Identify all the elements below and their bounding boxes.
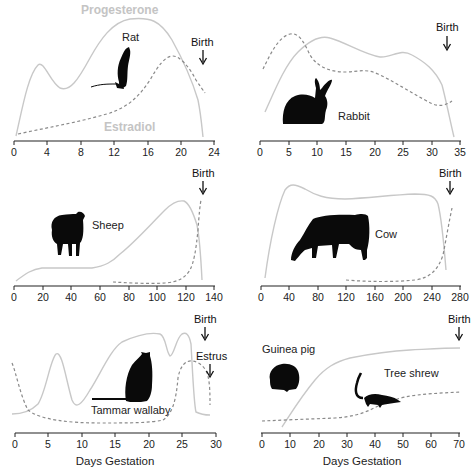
tick-label: 10 bbox=[284, 438, 296, 450]
tick-label: 20 bbox=[369, 146, 381, 158]
sheep-icon bbox=[51, 212, 85, 256]
tick-label: 0 bbox=[11, 291, 17, 303]
cow-birth-arrow-icon bbox=[447, 181, 454, 194]
tick-label: 40 bbox=[65, 291, 77, 303]
panel-cow: Cow Birth 0 40 80 120 160 200 240 280 bbox=[258, 167, 469, 303]
tick-label: 50 bbox=[397, 438, 409, 450]
tree-shrew-line bbox=[262, 392, 461, 421]
rat-icon bbox=[91, 47, 130, 89]
tick-label: 15 bbox=[109, 438, 121, 450]
tick-label: 140 bbox=[205, 291, 223, 303]
tick-label: 10 bbox=[311, 146, 323, 158]
tick-label: 80 bbox=[123, 291, 135, 303]
guinea-pig-label: Guinea pig bbox=[262, 343, 315, 355]
tick-label: 25 bbox=[397, 146, 409, 158]
tick-label: 0 bbox=[259, 438, 265, 450]
wallaby-birth-arrow-icon bbox=[202, 327, 209, 340]
guinea-xaxis-title: Days Gestation bbox=[323, 455, 402, 467]
wallaby-label: Tammar wallaby bbox=[91, 404, 171, 416]
guinea-birth-arrow-icon bbox=[456, 327, 463, 340]
rabbit-icon bbox=[283, 78, 332, 124]
tick-label: 70 bbox=[453, 438, 465, 450]
tick-label: 20 bbox=[143, 438, 155, 450]
tick-label: 60 bbox=[425, 438, 437, 450]
guinea-pig-icon bbox=[270, 364, 300, 392]
tick-label: 100 bbox=[148, 291, 166, 303]
estradiol-label: Estradiol bbox=[104, 120, 155, 134]
tick-label: 40 bbox=[283, 291, 295, 303]
rat-ticks bbox=[14, 141, 214, 145]
tick-label: 16 bbox=[142, 146, 154, 158]
tick-label: 40 bbox=[369, 438, 381, 450]
cow-birth-label: Birth bbox=[439, 167, 462, 179]
tick-label: 240 bbox=[423, 291, 441, 303]
tick-label: 120 bbox=[337, 291, 355, 303]
rat-birth-label: Birth bbox=[191, 36, 214, 48]
wallaby-birth-label: Birth bbox=[194, 313, 217, 325]
tick-label: 12 bbox=[108, 146, 120, 158]
tick-label: 5 bbox=[45, 438, 51, 450]
panel-tammar-wallaby: Tammar wallaby Birth Estrus 0 5 10 15 20… bbox=[12, 313, 228, 467]
figure-root: Progesterone Estradiol Rat Birth 0 4 8 1… bbox=[0, 0, 476, 474]
tick-label: 10 bbox=[76, 438, 88, 450]
tick-label: 120 bbox=[177, 291, 195, 303]
panel-sheep: Sheep Birth 0 20 40 60 80 100 120 140 bbox=[11, 167, 223, 303]
rabbit-label: Rabbit bbox=[338, 110, 370, 122]
cow-icon bbox=[291, 214, 369, 261]
estrus-arrow-icon bbox=[207, 364, 214, 377]
panel-guinea-pig-tree-shrew: Guinea pig Tree shrew Birth 0 10 20 30 4… bbox=[259, 313, 471, 467]
tick-label: 30 bbox=[341, 438, 353, 450]
tick-label: 80 bbox=[312, 291, 324, 303]
wallaby-xaxis-title: Days Gestation bbox=[76, 455, 155, 467]
tick-label: 35 bbox=[454, 146, 466, 158]
tick-label: 0 bbox=[11, 146, 17, 158]
sheep-birth-label: Birth bbox=[192, 167, 215, 179]
guinea-pig-line bbox=[282, 348, 460, 427]
tick-label: 24 bbox=[208, 146, 220, 158]
rabbit-ticks bbox=[260, 141, 460, 145]
rat-birth-arrow-icon bbox=[200, 50, 207, 64]
panel-rat: Progesterone Estradiol Rat Birth 0 4 8 1… bbox=[11, 3, 220, 158]
guinea-birth-label: Birth bbox=[448, 313, 471, 325]
cow-label: Cow bbox=[375, 228, 397, 240]
tick-label: 20 bbox=[37, 291, 49, 303]
rabbit-estradiol-line bbox=[263, 34, 452, 106]
tick-label: 5 bbox=[286, 146, 292, 158]
panel-rabbit: Rabbit Birth 0 5 10 15 20 25 30 35 bbox=[257, 21, 466, 158]
sheep-birth-arrow-icon bbox=[200, 181, 207, 194]
rat-label: Rat bbox=[122, 31, 139, 43]
progesterone-label: Progesterone bbox=[81, 3, 159, 17]
sheep-label: Sheep bbox=[92, 219, 124, 231]
tick-label: 30 bbox=[210, 438, 222, 450]
tick-label: 20 bbox=[175, 146, 187, 158]
rabbit-birth-arrow-icon bbox=[444, 36, 451, 50]
tick-label: 25 bbox=[176, 438, 188, 450]
tick-label: 15 bbox=[340, 146, 352, 158]
estrus-label: Estrus bbox=[196, 350, 228, 362]
tree-shrew-label: Tree shrew bbox=[384, 367, 439, 379]
tick-label: 4 bbox=[44, 146, 50, 158]
tick-label: 8 bbox=[78, 146, 84, 158]
tick-label: 0 bbox=[258, 291, 264, 303]
sheep-estradiol-line bbox=[113, 200, 201, 283]
tick-label: 0 bbox=[12, 438, 18, 450]
sheep-progesterone-line bbox=[16, 201, 202, 281]
tammar-wallaby-icon bbox=[92, 352, 152, 402]
tick-label: 60 bbox=[94, 291, 106, 303]
tick-label: 20 bbox=[313, 438, 325, 450]
tick-label: 30 bbox=[426, 146, 438, 158]
tick-label: 280 bbox=[451, 291, 469, 303]
tick-label: 160 bbox=[366, 291, 384, 303]
tick-label: 200 bbox=[394, 291, 412, 303]
tick-label: 0 bbox=[257, 146, 263, 158]
rabbit-birth-label: Birth bbox=[436, 21, 459, 33]
wallaby-progesterone-line bbox=[12, 333, 210, 415]
